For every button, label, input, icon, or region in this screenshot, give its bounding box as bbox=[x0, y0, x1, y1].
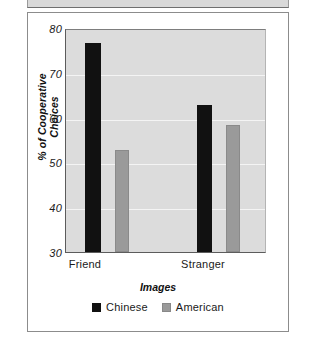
bar-chart: % of Cooperative Choices 80 70 60 50 40 … bbox=[28, 13, 288, 331]
legend-label-chinese: Chinese bbox=[106, 301, 148, 313]
bar-friend-american[interactable] bbox=[115, 150, 129, 252]
legend-item-chinese[interactable]: Chinese bbox=[92, 301, 148, 313]
figure-frame: % of Cooperative Choices 80 70 60 50 40 … bbox=[27, 12, 289, 332]
x-axis-title: Images bbox=[28, 281, 288, 293]
y-tick-40: 40 bbox=[36, 202, 62, 214]
bar-stranger-chinese[interactable] bbox=[197, 105, 212, 252]
page-header-strip bbox=[27, 0, 289, 8]
chart-legend: Chinese American bbox=[28, 301, 288, 313]
bar-stranger-american[interactable] bbox=[226, 125, 240, 252]
legend-label-american: American bbox=[176, 301, 224, 313]
legend-item-american[interactable]: American bbox=[162, 301, 224, 313]
y-tick-60: 60 bbox=[36, 113, 62, 125]
y-tick-80: 80 bbox=[36, 23, 62, 35]
plot-area bbox=[65, 29, 266, 253]
y-axis-ticks: 80 70 60 50 40 30 bbox=[32, 29, 62, 253]
gray-square-swatch-icon bbox=[162, 303, 171, 312]
y-tick-50: 50 bbox=[36, 157, 62, 169]
x-tick-friend: Friend bbox=[55, 258, 115, 270]
black-square-swatch-icon bbox=[92, 303, 101, 312]
bar-friend-chinese[interactable] bbox=[85, 43, 101, 252]
x-tick-stranger: Stranger bbox=[168, 258, 238, 270]
y-tick-70: 70 bbox=[36, 68, 62, 80]
